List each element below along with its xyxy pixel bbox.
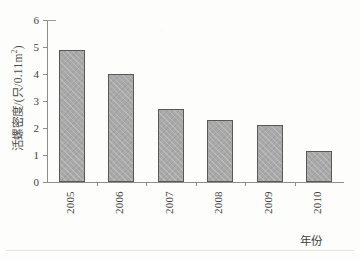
y-tick-label: 4 [23,66,39,82]
plot-area: 0123456 [47,20,344,182]
x-tick-label-text: 2008 [212,174,224,214]
y-tick: 5 [43,47,47,48]
bar [158,109,184,182]
x-tick-label-text: 2009 [262,174,274,214]
y-tick-label: 6 [23,12,39,28]
y-axis-top-cap [47,20,56,21]
y-tick-label: 2 [23,120,39,136]
y-tick-label: 1 [23,147,39,163]
y-axis-title-superscript: 2 [10,49,19,53]
x-tick-label: 2008 [200,186,240,226]
x-tick-label: 2009 [250,186,290,226]
x-axis-title: 年份 [300,232,322,248]
x-tick-label-text: 2005 [64,174,76,214]
x-tick [196,182,197,186]
y-tick-label: 0 [23,174,39,190]
bar [59,50,85,182]
x-tick-label-text: 2007 [163,174,175,214]
x-tick [295,182,296,186]
y-tick: 3 [43,101,47,102]
x-tick-label-text: 2010 [311,174,323,214]
scan-artifact-line [6,250,354,251]
bar [207,120,233,182]
x-tick-label-text: 2006 [113,174,125,214]
y-tick: 2 [43,128,47,129]
x-tick [97,182,98,186]
y-tick: 6 [43,20,47,21]
x-tick-label: 2005 [52,186,92,226]
y-tick: 4 [43,74,47,75]
y-tick: 0 [43,182,47,183]
bar [108,74,134,182]
x-tick [245,182,246,186]
bar-chart-figure: 活螺密度/(只/0.11m2) 0123456 2005200620072008… [0,0,360,260]
y-tick-label: 5 [23,39,39,55]
x-tick-label: 2006 [101,186,141,226]
y-axis-line [47,20,48,182]
x-tick-label: 2007 [151,186,191,226]
y-tick: 1 [43,155,47,156]
y-tick-label: 3 [23,93,39,109]
x-tick-label: 2010 [299,186,339,226]
x-tick [146,182,147,186]
